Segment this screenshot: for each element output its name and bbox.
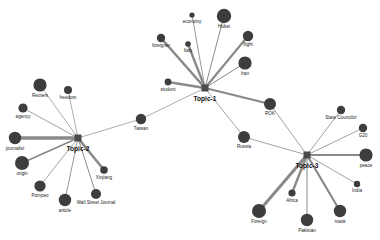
word-node[interactable] <box>359 148 372 161</box>
graph-edge <box>141 88 205 119</box>
graph-edge <box>78 119 141 138</box>
word-node-label: student <box>160 87 176 92</box>
word-node-label: G20 <box>359 133 368 138</box>
word-node[interactable] <box>15 156 29 170</box>
topic-node-label: Topic-2 <box>67 145 90 153</box>
graph-edge <box>292 155 307 193</box>
word-node[interactable] <box>9 132 21 144</box>
word-node[interactable] <box>334 205 346 217</box>
graph-edge <box>78 138 104 170</box>
word-node[interactable] <box>238 131 250 143</box>
word-node[interactable] <box>217 9 231 23</box>
word-node-label: India <box>352 188 362 193</box>
word-node[interactable] <box>33 78 46 91</box>
word-node[interactable] <box>100 166 108 174</box>
word-node[interactable] <box>34 180 45 191</box>
word-node-label: Pakistan <box>298 228 316 233</box>
topic-node[interactable] <box>202 85 209 92</box>
word-node-label: mask <box>335 219 347 224</box>
word-node-label: economy <box>183 19 202 24</box>
word-node[interactable] <box>238 56 251 69</box>
word-node-label: flight <box>243 42 253 47</box>
edge-layer <box>15 15 366 220</box>
word-node[interactable] <box>252 204 266 218</box>
word-node[interactable] <box>18 103 27 112</box>
word-node[interactable] <box>301 214 313 226</box>
word-node[interactable] <box>165 79 172 86</box>
word-node[interactable] <box>64 86 72 94</box>
graph-edge <box>23 108 78 138</box>
word-node-label: Italy <box>184 48 193 53</box>
word-node-label: journalist <box>5 146 25 151</box>
word-node-label: article <box>59 208 72 213</box>
word-node-label: Xinjiang <box>96 175 113 180</box>
word-node-label: Iran <box>241 71 249 76</box>
word-node[interactable] <box>288 189 295 196</box>
word-node-label: peace <box>360 163 373 168</box>
topic-network-graph: economyHubeiforeignerItalyflightIranstud… <box>0 0 380 240</box>
word-node[interactable] <box>354 181 360 187</box>
word-node[interactable] <box>189 12 194 17</box>
word-node-label: State Councilor <box>325 115 357 120</box>
word-node-label: foreigner <box>152 43 171 48</box>
word-node-label: ROK <box>265 111 276 116</box>
topic-node[interactable] <box>304 152 311 159</box>
graph-edge <box>307 128 363 155</box>
word-node[interactable] <box>157 34 165 42</box>
word-node-label: Taiwan <box>134 126 149 131</box>
word-node-label: Foreign <box>251 219 267 224</box>
graph-edge <box>270 104 307 155</box>
word-node-label: Russia <box>237 144 251 149</box>
word-node[interactable] <box>243 31 253 41</box>
word-node[interactable] <box>136 114 146 124</box>
word-node-label: freedom <box>60 95 77 100</box>
word-node[interactable] <box>185 41 191 47</box>
topic-node-label: Topic-1 <box>194 95 217 103</box>
word-node-label: Reuters <box>32 93 49 98</box>
graph-canvas: economyHubeiforeignerItalyflightIranstud… <box>0 0 380 240</box>
word-node-label: Africa <box>286 198 298 203</box>
word-node[interactable] <box>337 106 345 114</box>
graph-edge <box>244 137 307 155</box>
word-node-label: Hubei <box>218 24 230 29</box>
word-node-label: Wall Street Journal <box>77 200 116 205</box>
word-node-label: origin <box>16 171 28 176</box>
word-node[interactable] <box>91 189 101 199</box>
topic-node[interactable] <box>75 135 82 142</box>
word-node[interactable] <box>359 124 367 132</box>
topic-node-label: Topic-3 <box>296 162 319 170</box>
word-node-label: Pompeo <box>31 193 49 198</box>
word-node-label: agency <box>16 114 32 119</box>
word-node[interactable] <box>264 98 276 110</box>
word-node[interactable] <box>59 194 71 206</box>
